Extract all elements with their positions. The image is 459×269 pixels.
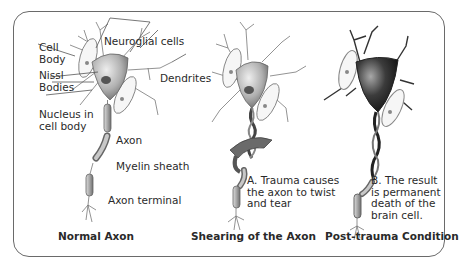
label-nissl-bodies: Nissl Bodies — [39, 70, 74, 93]
label-dendrites: Dendrites — [160, 73, 211, 85]
caption-normal-axon: Normal Axon — [58, 230, 134, 242]
caption-post-trauma: Post-trauma Condition — [325, 230, 459, 242]
annotation-result: B. The result is permanent death of the … — [371, 175, 441, 221]
label-axon: Axon — [116, 135, 142, 147]
caption-shearing: Shearing of the Axon — [191, 230, 316, 242]
annotation-trauma: A. Trauma causes the axon to twist and t… — [247, 175, 339, 210]
label-cell-body: Cell Body — [39, 42, 66, 65]
label-myelin-sheath: Myelin sheath — [116, 161, 189, 173]
label-axon-terminal: Axon terminal — [108, 195, 181, 207]
label-neuroglial-cells: Neuroglial cells — [104, 36, 184, 48]
label-nucleus: Nucleus in cell body — [39, 109, 94, 132]
